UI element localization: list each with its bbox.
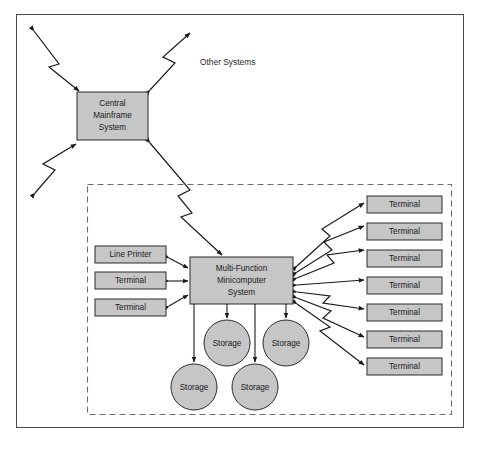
terminal-right-3-node[interactable]: Terminal [367, 250, 442, 267]
storage-4-node[interactable]: Storage [232, 364, 278, 410]
storage-4-label: Storage [241, 383, 270, 392]
link-minicomputer-terminal-right-1 [297, 203, 364, 266]
multi-function-minicomputer-system-node[interactable]: Multi-Function Minicomputer System [190, 257, 293, 304]
terminal-right-5-node[interactable]: Terminal [367, 304, 442, 321]
terminal-right-1-node[interactable]: Terminal [367, 196, 442, 213]
storage-1-label: Storage [213, 339, 242, 348]
terminal-right-7-label: Terminal [389, 362, 420, 371]
diagram-page: Central Mainframe System Multi-Function … [0, 0, 479, 450]
terminal-right-1-label: Terminal [389, 200, 420, 209]
radio-link-mainframe-northeast [150, 33, 190, 90]
terminal-right-4-label: Terminal [389, 281, 420, 290]
minicomputer-label-line-1: Multi-Function [216, 264, 268, 273]
terminal-right-6-node[interactable]: Terminal [367, 331, 442, 348]
terminal-right-6-label: Terminal [389, 335, 420, 344]
link-minicomputer-terminal-right-2 [297, 226, 364, 272]
terminal-left-1-node[interactable]: Terminal [95, 272, 166, 289]
terminal-right-4-node[interactable]: Terminal [367, 277, 442, 294]
storage-3-node[interactable]: Storage [171, 364, 217, 410]
terminal-left-2-node[interactable]: Terminal [95, 299, 166, 316]
line-printer-node[interactable]: Line Printer [95, 246, 166, 263]
storage-1-node[interactable]: Storage [204, 320, 250, 366]
central-mainframe-system-label-line-2: Mainframe [93, 111, 132, 120]
terminal-left-2-label: Terminal [115, 303, 146, 312]
terminal-right-5-label: Terminal [389, 308, 420, 317]
radio-link-mainframe-northwest [34, 31, 79, 91]
terminal-right-3-label: Terminal [389, 254, 420, 263]
line-printer-label: Line Printer [110, 250, 152, 259]
storage-2-node[interactable]: Storage [263, 320, 309, 366]
link-mainframe-minicomputer [150, 143, 222, 255]
system-topology-diagram: Central Mainframe System Multi-Function … [0, 0, 479, 450]
central-mainframe-system-label-line-3: System [99, 123, 126, 132]
terminal-right-7-node[interactable]: Terminal [367, 358, 442, 375]
terminal-right-2-label: Terminal [389, 227, 420, 236]
minicomputer-label-line-2: Minicomputer [217, 276, 266, 285]
minicomputer-label-line-3: System [228, 288, 255, 297]
central-mainframe-system-node[interactable]: Central Mainframe System [77, 92, 148, 140]
radio-link-mainframe-southwest [35, 144, 76, 193]
link-line-printer-minicomputer [169, 258, 188, 268]
terminal-left-1-label: Terminal [115, 276, 146, 285]
storage-2-label: Storage [272, 339, 301, 348]
link-minicomputer-terminal-right-5 [297, 292, 364, 309]
link-minicomputer-terminal-right-3 [297, 250, 364, 278]
central-mainframe-system-label-line-1: Central [99, 99, 126, 108]
link-terminal-left-2-minicomputer [169, 295, 188, 306]
terminal-right-2-node[interactable]: Terminal [367, 223, 442, 240]
other-systems-label: Other Systems [200, 57, 255, 67]
storage-3-label: Storage [180, 383, 209, 392]
link-minicomputer-terminal-right-4 [297, 280, 364, 285]
